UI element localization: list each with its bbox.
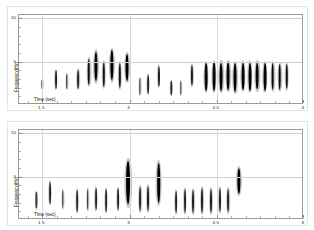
- bottom-ytick-minor: [19, 151, 21, 152]
- bottom-xtick-minor: [202, 216, 203, 218]
- bottom-burst-halo: [209, 187, 213, 214]
- bottom-burst-halo: [218, 186, 222, 214]
- bottom-xtick: [303, 215, 304, 218]
- bottom-burst-halo: [76, 188, 79, 214]
- top-xtick-minor: [57, 101, 58, 103]
- top-burst-halo: [226, 60, 231, 92]
- top-ytick-minor: [19, 70, 21, 71]
- bottom-gridline-y: [19, 133, 302, 134]
- top-xtick-label: 3: [127, 105, 130, 110]
- bottom-ytick-label: 10: [8, 130, 16, 135]
- top-burst-halo: [284, 62, 289, 91]
- bottom-ytick-minor: [19, 185, 21, 186]
- bottom-burst-halo: [35, 191, 37, 210]
- bottom-ytick-minor: [19, 142, 21, 143]
- top-burst-halo: [179, 80, 182, 96]
- bottom-burst-halo: [200, 186, 204, 214]
- bottom-xtick-minor: [159, 216, 160, 218]
- top-burst-halo: [157, 64, 161, 88]
- top-xtick-label: 4.5: [213, 105, 219, 110]
- bottom-burst-halo: [48, 180, 51, 206]
- top-xtick-minor: [144, 101, 145, 103]
- top-xtick-minor: [289, 101, 290, 103]
- bottom-xtick-minor: [144, 216, 145, 218]
- top-xtick-minor: [246, 101, 247, 103]
- bottom-xtick: [130, 215, 131, 218]
- bottom-burst-halo: [155, 160, 162, 206]
- bottom-ytick-label: 5: [8, 173, 16, 178]
- top-burst-halo: [255, 60, 260, 91]
- bottom-xtick-minor: [57, 216, 58, 218]
- bottom-burst-halo: [146, 184, 150, 213]
- top-xtick-minor: [188, 101, 189, 103]
- top-burst-halo: [77, 68, 81, 90]
- bottom-xtick-label: 3: [127, 220, 130, 225]
- top-burst-halo: [139, 77, 142, 96]
- top-gridline-x: [217, 15, 218, 103]
- top-burst-halo: [211, 60, 216, 93]
- bottom-burst-halo: [105, 187, 108, 214]
- top-ytick-minor: [19, 44, 21, 45]
- top-burst-halo: [170, 80, 173, 96]
- top-ytick-minor: [19, 79, 21, 80]
- top-y-axis-title: Frequency(Hz): [14, 62, 19, 92]
- top-burst-halo: [54, 69, 58, 90]
- bottom-xtick-minor: [100, 216, 101, 218]
- bottom-xtick-minor: [231, 216, 232, 218]
- top-burst-halo: [102, 60, 107, 89]
- top-xtick-minor: [86, 101, 87, 103]
- top-spectrogram-panel: Time (sec) Frequency(Hz) 1.534.56510: [0, 0, 314, 115]
- top-xtick-minor: [71, 101, 72, 103]
- top-burst-halo: [262, 61, 267, 93]
- bottom-burst-halo: [227, 187, 231, 213]
- top-burst-halo: [270, 61, 275, 92]
- top-burst-halo: [204, 61, 209, 93]
- bottom-x-axis-title: Time (sec): [34, 212, 56, 217]
- top-xtick-minor: [28, 101, 29, 103]
- bottom-xtick-minor: [86, 216, 87, 218]
- top-ytick: [19, 62, 22, 63]
- top-xtick: [303, 100, 304, 103]
- top-gridline-y: [19, 62, 302, 63]
- bottom-xtick-minor: [28, 216, 29, 218]
- top-burst-halo: [147, 73, 150, 95]
- top-burst-halo: [65, 73, 68, 90]
- top-burst-halo: [219, 60, 224, 93]
- bottom-ytick-minor: [19, 203, 21, 204]
- bottom-xtick-label: 4.5: [213, 220, 219, 225]
- bottom-gridline-y: [19, 177, 302, 178]
- top-xtick-minor: [275, 101, 276, 103]
- top-ytick-label: 5: [8, 58, 16, 63]
- bottom-burst-halo: [94, 186, 97, 212]
- bottom-ytick: [19, 177, 22, 178]
- bottom-xtick-minor: [173, 216, 174, 218]
- top-xtick-minor: [100, 101, 101, 103]
- bottom-plot-area: [19, 130, 302, 218]
- bottom-spectrogram-panel: Time (sec) Frequency(Hz) 1.534.56510: [0, 115, 314, 230]
- top-ytick-minor: [19, 96, 21, 97]
- bottom-ytick-minor: [19, 159, 21, 160]
- top-gridline-y: [19, 18, 302, 19]
- bottom-ytick-minor: [19, 194, 21, 195]
- bottom-burst-halo: [236, 166, 242, 196]
- top-burst-halo: [93, 49, 99, 83]
- top-plot-frame: [18, 14, 303, 104]
- bottom-xtick-minor: [289, 216, 290, 218]
- top-xtick-minor: [260, 101, 261, 103]
- bottom-plot-frame: [18, 129, 303, 219]
- top-ytick-minor: [19, 88, 21, 89]
- bottom-xtick-label: 1.5: [38, 220, 44, 225]
- top-burst-halo: [277, 62, 282, 92]
- top-burst-halo: [190, 63, 194, 87]
- bottom-burst-halo: [183, 187, 187, 214]
- top-xtick-minor: [231, 101, 232, 103]
- bottom-xtick-minor: [260, 216, 261, 218]
- top-burst-halo: [233, 61, 239, 94]
- top-burst-halo: [247, 60, 252, 93]
- bottom-ytick: [19, 133, 22, 134]
- bottom-gridline-x: [217, 130, 218, 218]
- figure-root: Time (sec) Frequency(Hz) 1.534.56510 Tim…: [0, 0, 314, 230]
- bottom-xtick: [217, 215, 218, 218]
- top-x-axis-title: Time (sec): [34, 97, 56, 102]
- top-ytick-label: 10: [8, 15, 16, 20]
